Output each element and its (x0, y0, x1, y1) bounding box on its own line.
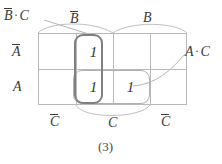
label-a-base: A (13, 79, 22, 94)
label-not-b: B (70, 10, 79, 27)
figure-caption: (3) (98, 139, 113, 155)
kmap-cell-r1c0[interactable] (38, 69, 75, 105)
label-not-c-left-base: C (50, 113, 59, 130)
label-not-a: A (12, 43, 21, 60)
group-box-not-b-and-c[interactable] (74, 34, 103, 104)
label-a-and-c-operator: · (195, 44, 199, 59)
kmap-cell-r0c3[interactable] (149, 34, 186, 70)
label-not-a-base: A (12, 43, 21, 60)
label-c-base: C (108, 115, 117, 130)
label-c: C (108, 115, 117, 131)
figure-canvas: 1 1 1 B·C B B A A A·C C C C (3) (0, 0, 222, 164)
label-not-b-and-c-operator: · (14, 8, 18, 23)
label-b-base: B (143, 10, 152, 25)
label-not-c-left: C (50, 113, 59, 130)
label-b: B (143, 10, 152, 26)
label-not-b-and-c: B·C (4, 7, 29, 24)
label-not-b-and-c-base: B (4, 7, 13, 24)
label-a-and-c: A·C (185, 44, 210, 60)
kmap-cell-r0c2[interactable] (112, 34, 149, 70)
label-not-c-right-base: C (161, 113, 170, 130)
label-a-and-c-second: C (201, 44, 210, 59)
kmap-cell-r0c0[interactable] (38, 34, 75, 70)
label-a-and-c-base: A (185, 44, 194, 59)
label-not-b-and-c-second: C (20, 8, 29, 23)
label-a: A (13, 79, 22, 95)
label-not-b-base: B (70, 10, 79, 27)
brace-bottom-c (76, 105, 150, 116)
kmap-cell-r1c3[interactable] (149, 69, 186, 105)
label-not-c-right: C (161, 113, 170, 130)
